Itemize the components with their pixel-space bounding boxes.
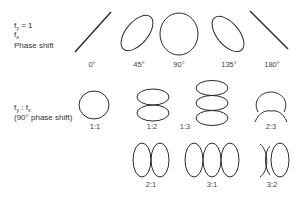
lissajous-2-1 (133, 143, 169, 177)
lissajous-1-1 (79, 91, 109, 119)
caption-135deg: 135° (214, 60, 244, 69)
caption-3-2: 3:2 (257, 180, 287, 189)
lissajous-135deg (206, 11, 250, 57)
lissajous-1-3 (196, 81, 228, 126)
lissajous-3-1 (185, 143, 239, 177)
lissajous-figures (0, 0, 300, 202)
caption-90deg: 90° (164, 60, 194, 69)
lissajous-90deg (160, 13, 198, 55)
caption-2-1: 2:1 (136, 180, 166, 189)
caption-180deg: 180° (257, 60, 287, 69)
lissajous-180deg (250, 11, 288, 49)
lissajous-1-2 (137, 89, 169, 121)
caption-1-1: 1:1 (80, 122, 110, 131)
caption-0deg: 0° (77, 60, 107, 69)
caption-1-2: 1:2 (137, 122, 167, 131)
lissajous-2-3 (255, 92, 287, 122)
caption-3-1: 3:1 (197, 180, 227, 189)
caption-1-3: 1:3 (170, 122, 200, 131)
caption-45deg: 45° (124, 60, 154, 69)
lissajous-3-2 (260, 143, 289, 177)
lissajous-0deg (75, 12, 111, 52)
caption-2-3: 2:3 (256, 122, 286, 131)
lissajous-45deg (115, 10, 159, 56)
